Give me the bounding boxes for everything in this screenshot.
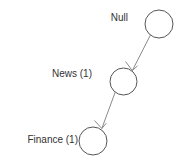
node-label-null: Null (111, 12, 128, 24)
node-circle-finance[interactable] (79, 127, 107, 155)
node-label-finance: Finance (1) (27, 134, 78, 146)
edge-news-to-finance[interactable] (95, 92, 116, 128)
edge-null-to-news[interactable] (126, 35, 151, 71)
node-circle-null[interactable] (145, 10, 173, 38)
edge-line (132, 35, 150, 71)
nodes-group (79, 10, 173, 155)
edge-line (102, 92, 115, 128)
diagram-canvas: Null News (1) Finance (1) (0, 0, 178, 164)
node-circle-news[interactable] (110, 68, 137, 95)
node-label-news: News (1) (52, 68, 92, 80)
